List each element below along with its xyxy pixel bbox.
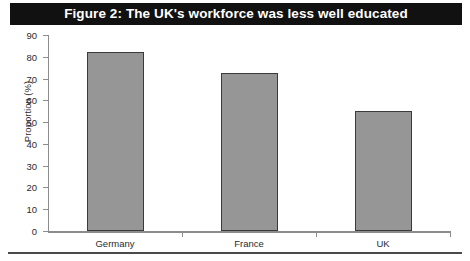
x-category-label: UK <box>376 238 389 249</box>
y-tick-mark <box>43 79 48 80</box>
y-tick-label: 90 <box>26 30 37 41</box>
x-axis-line <box>48 231 450 233</box>
figure-title-text: Figure 2: The UK's workforce was less we… <box>64 7 408 21</box>
y-tick-mark <box>43 187 48 188</box>
x-tick-mark <box>450 231 451 237</box>
y-tick-label: 50 <box>26 117 37 128</box>
bar-uk <box>355 111 412 231</box>
bar-france <box>221 73 278 231</box>
y-tick-mark <box>43 166 48 167</box>
chart-plot-area: Proportion (%) 0102030405060708090 Germa… <box>0 28 470 261</box>
y-tick-label: 60 <box>26 95 37 106</box>
y-tick-mark <box>43 122 48 123</box>
x-tick-mark <box>182 231 183 237</box>
y-axis-line <box>48 35 49 232</box>
y-tick-mark <box>43 57 48 58</box>
x-category-label: Germany <box>95 238 134 249</box>
y-tick-mark <box>43 35 48 36</box>
y-tick-label: 80 <box>26 51 37 62</box>
x-category-label: France <box>234 238 264 249</box>
y-tick-label: 10 <box>26 204 37 215</box>
bar-germany <box>87 52 144 231</box>
y-tick-mark <box>43 100 48 101</box>
y-tick-label: 20 <box>26 182 37 193</box>
y-tick-label: 30 <box>26 160 37 171</box>
y-tick-label: 70 <box>26 73 37 84</box>
y-tick-mark <box>43 231 48 232</box>
y-tick-mark <box>43 144 48 145</box>
bottom-divider <box>8 252 462 254</box>
y-tick-label: 0 <box>32 226 37 237</box>
x-tick-mark <box>316 231 317 237</box>
figure-title-banner: Figure 2: The UK's workforce was less we… <box>10 3 462 25</box>
y-tick-label: 40 <box>26 138 37 149</box>
figure-container: Figure 2: The UK's workforce was less we… <box>0 0 470 261</box>
y-tick-mark <box>43 209 48 210</box>
